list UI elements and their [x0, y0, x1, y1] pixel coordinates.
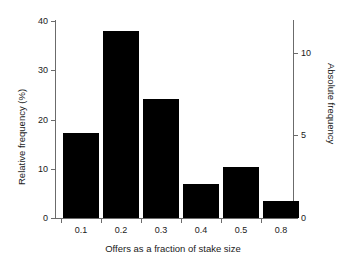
x-axis-title: Offers as a fraction of stake size — [0, 243, 346, 254]
x-tick-label-0.3: 0.3 — [141, 226, 181, 235]
left-tick-label-40: 40 — [38, 17, 48, 26]
left-tick-10 — [51, 169, 55, 170]
x-tick-0.3 — [141, 219, 142, 223]
left-tick-label-0: 0 — [43, 214, 48, 223]
left-tick-0 — [51, 218, 55, 219]
left-axis-spine — [55, 20, 56, 219]
left-tick-label-30: 30 — [38, 66, 48, 75]
left-tick-40 — [51, 21, 55, 22]
left-tick-label-20: 20 — [38, 116, 48, 125]
x-tick-label-0.4: 0.4 — [181, 226, 221, 235]
right-tick-label-0: 0 — [301, 214, 306, 223]
right-tick-label-10: 10 — [301, 49, 311, 58]
left-tick-label-10: 10 — [38, 165, 48, 174]
right-tick-10 — [294, 53, 298, 54]
x-tick-0.4 — [181, 219, 182, 223]
right-tick-5 — [294, 135, 298, 136]
x-tick-0.5 — [221, 219, 222, 223]
bar-0.5 — [223, 167, 259, 218]
bar-0.1 — [63, 133, 99, 218]
bar-0.3 — [143, 99, 179, 218]
x-tick-label-0.1: 0.1 — [61, 226, 101, 235]
left-tick-30 — [51, 70, 55, 71]
x-tick-label-0.5: 0.5 — [221, 226, 261, 235]
x-tick-label-0.8: 0.8 — [261, 226, 301, 235]
x-tick-0.8 — [261, 219, 262, 223]
bar-0.8 — [263, 201, 299, 218]
x-tick-label-0.2: 0.2 — [101, 226, 141, 235]
bar-0.2 — [103, 31, 139, 218]
left-tick-20 — [51, 120, 55, 121]
x-tick-0.2 — [101, 219, 102, 223]
right-axis-spine — [293, 20, 294, 219]
right-tick-label-5: 5 — [301, 131, 306, 140]
x-axis-baseline — [55, 218, 294, 219]
histogram-figure: 0 10 20 30 40 0 5 10 0.1 0.2 0.3 0.4 0.5… — [0, 0, 346, 268]
right-y-axis-title: Absolute frequency — [326, 63, 336, 144]
bar-0.4 — [183, 184, 219, 218]
right-tick-0 — [294, 218, 298, 219]
x-tick-0.1 — [61, 219, 62, 223]
left-y-axis-title: Relative frequency (%) — [17, 89, 27, 185]
